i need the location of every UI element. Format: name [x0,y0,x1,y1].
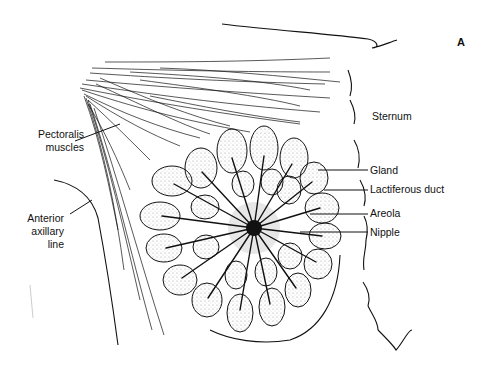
label-nipple: Nipple [370,226,400,239]
label-axillary-line1: Anterior [8,212,64,225]
anatomy-diagram: A Sternum Gland Lactiferous duct Areola … [0,0,487,383]
nipple [246,220,262,236]
axillary-leader [70,200,92,214]
label-sternum: Sternum [372,110,412,123]
label-gland: Gland [370,164,398,177]
label-lactiferous-duct: Lactiferous duct [370,183,444,196]
label-axillary-line2: axillary [8,225,64,238]
label-pectoralis-line2: muscles [22,141,84,154]
shoulder-line [222,24,397,48]
label-pectoralis-line1: Pectoralis [22,128,84,141]
panel-letter: A [457,36,465,48]
label-pectoralis-muscles: Pectoralis muscles [22,128,84,154]
label-anterior-axillary-line: Anterior axillary line [8,212,64,251]
axillary-curve [54,180,118,345]
axillary-faint-line [30,285,33,318]
label-areola: Areola [370,207,400,220]
label-axillary-line3: line [8,238,64,251]
